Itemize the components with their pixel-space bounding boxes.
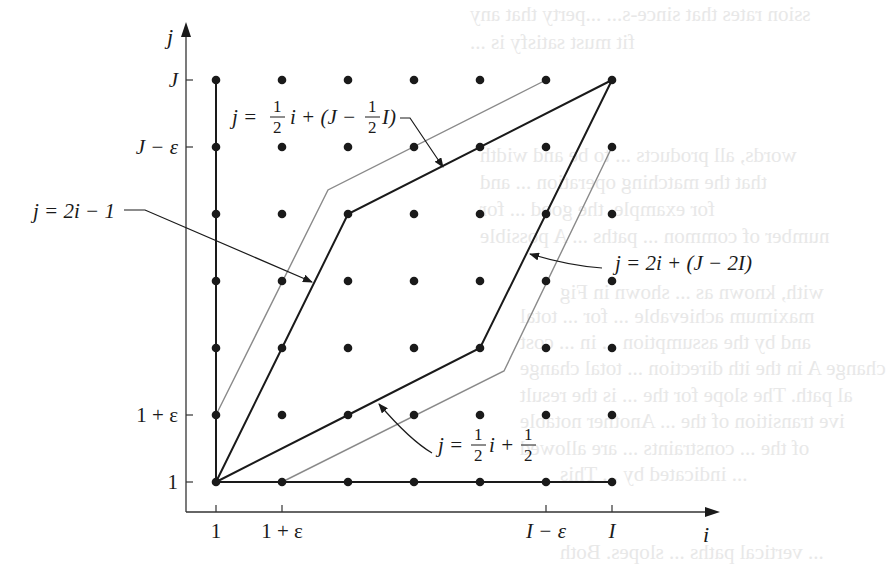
x-axis-arrow-icon [705, 507, 720, 517]
grid-point [278, 76, 287, 85]
label-arrow-icon [530, 254, 602, 268]
grid-point [608, 344, 617, 353]
svg-text:j =: j = [229, 105, 257, 129]
svg-text:2: 2 [474, 446, 483, 465]
grid-point [344, 411, 353, 420]
grid-point [542, 76, 551, 85]
grid-point [344, 344, 353, 353]
grid-point [542, 277, 551, 286]
svg-text:1: 1 [474, 425, 483, 444]
grid-point [278, 143, 287, 152]
label-shallow-lower-line: j = 1 2 i + 1 2 [379, 404, 536, 465]
svg-text:1: 1 [524, 425, 533, 444]
grid-point [212, 277, 221, 286]
grid-point [608, 277, 617, 286]
grid-point [278, 277, 287, 286]
y-tick-label: J − ε [136, 135, 179, 159]
grid-point [410, 76, 419, 85]
grid-point [410, 344, 419, 353]
grid-point [344, 210, 353, 219]
svg-text:i +: i + [489, 433, 514, 457]
grid-point [476, 344, 485, 353]
y-tick-label: 1 + ε [136, 403, 178, 427]
grid-point [542, 210, 551, 219]
grid-point [344, 143, 353, 152]
grid-point [476, 76, 485, 85]
grid-point [212, 76, 221, 85]
grid-point [212, 210, 221, 219]
grid-point [476, 210, 485, 219]
svg-text:j =: j = [435, 433, 463, 457]
grid-point [410, 478, 419, 487]
grid-points [212, 76, 617, 487]
gray-path [282, 147, 612, 482]
grid-point [476, 277, 485, 286]
label-steep-lower-line: j = 2i − 1 [30, 199, 312, 282]
grid-point [542, 344, 551, 353]
svg-text:2: 2 [368, 118, 377, 137]
y-tick-label: J [169, 68, 180, 92]
label-arrow-icon [124, 210, 312, 282]
y-axis-label: j [164, 24, 173, 49]
grid-point [410, 411, 419, 420]
grid-point [476, 143, 485, 152]
svg-text:2: 2 [273, 118, 282, 137]
svg-text:j = 2i + (J − 2I): j = 2i + (J − 2I) [612, 251, 752, 275]
grid-point [212, 411, 221, 420]
x-tick-label: I − ε [525, 519, 567, 543]
grid-point [344, 76, 353, 85]
grid-point [278, 411, 287, 420]
grid-point [410, 143, 419, 152]
y-tick-label: 1 [168, 470, 179, 494]
svg-text:2: 2 [524, 446, 533, 465]
grid-point [344, 478, 353, 487]
grid-point [608, 76, 617, 85]
grid-point [542, 478, 551, 487]
grid-point [278, 210, 287, 219]
grid-point [608, 478, 617, 487]
x-tick-label: 1 + ε [261, 519, 303, 543]
grid-point [410, 277, 419, 286]
grid-point [542, 143, 551, 152]
svg-text:1: 1 [368, 97, 377, 116]
grid-point [542, 411, 551, 420]
grid-point [212, 143, 221, 152]
grid-point [608, 143, 617, 152]
svg-text:i + (J −: i + (J − [290, 105, 356, 129]
grid-point [608, 210, 617, 219]
grid-point [410, 210, 419, 219]
grid-point [212, 478, 221, 487]
grid-point [476, 478, 485, 487]
svg-text:I): I) [381, 105, 396, 129]
grid-point [344, 277, 353, 286]
x-tick-label: I [608, 519, 617, 543]
grid-point [476, 411, 485, 420]
grid-point [278, 478, 287, 487]
svg-text:1: 1 [273, 97, 282, 116]
svg-text:j = 2i − 1: j = 2i − 1 [30, 199, 115, 223]
x-axis-label: i [703, 522, 709, 547]
grid-point [212, 344, 221, 353]
grid-point [278, 344, 287, 353]
grid-point [608, 411, 617, 420]
label-upper-shallow-line: j = 1 2 i + (J − 1 2 I) [229, 97, 443, 167]
y-axis-arrow-icon [181, 22, 191, 37]
label-steep-upper-line: j = 2i + (J − 2I) [530, 251, 752, 275]
gray-path [216, 80, 546, 415]
x-tick-label: 1 [211, 519, 222, 543]
